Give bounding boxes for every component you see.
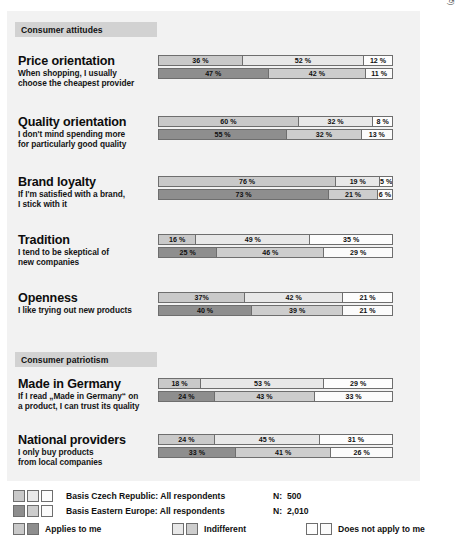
question-subtitle: If I read „Made in Germany“ ona product,… <box>18 392 158 411</box>
bar-segment-indifferent: 19 % <box>336 177 380 186</box>
bar-segment-does-not-apply-to-me: 5 % <box>380 177 392 186</box>
bar-group-quality-orientation: 60 %32 %8 %55 %32 %13 % <box>158 116 393 142</box>
bar-segment-applies-to-me: 76 % <box>159 177 336 186</box>
n-value: 500 <box>287 491 301 501</box>
question-subtitle: I only buy productsfrom local companies <box>18 448 158 467</box>
question-label-openness: OpennessI like trying out new products <box>18 292 158 316</box>
question-subtitle-line: from local companies <box>18 458 158 468</box>
bar-segment-indifferent: 41 % <box>236 448 332 457</box>
bar-segment-applies-to-me: 40 % <box>159 306 252 315</box>
question-label-made-in-germany: Made in GermanyIf I read „Made in German… <box>18 378 158 411</box>
bar-national-providers-czech: 24 %45 %31 % <box>158 434 393 445</box>
question-subtitle: I tend to be skeptical ofnew companies <box>18 248 158 267</box>
question-subtitle: I don't mind spending morefor particular… <box>18 130 158 149</box>
bar-made-in-germany-eastern: 24 %43 %33 % <box>158 391 393 402</box>
bar-segment-does-not-apply-to-me: 13 % <box>362 130 392 139</box>
bar-segment-does-not-apply-to-me: 21 % <box>343 306 392 315</box>
question-subtitle-line: I like trying out new products <box>18 306 158 316</box>
question-subtitle-line: I stick with it <box>18 200 158 210</box>
question-title: National providers <box>18 434 158 447</box>
section-header-label: Consumer attitudes <box>21 25 103 35</box>
bar-segment-applies-to-me: 47 % <box>159 69 269 78</box>
legend-key-does-not-apply: Does not apply to me <box>306 523 425 535</box>
bar-segment-applies-to-me: 33 % <box>159 448 236 457</box>
swatch-does-not-apply-light <box>306 523 318 535</box>
question-subtitle-line: a product, I can trust its quality <box>18 402 158 412</box>
bar-segment-applies-to-me: 25 % <box>159 248 217 257</box>
bar-segment-does-not-apply-to-me: 33 % <box>315 392 392 401</box>
legend-key-label: Applies to me <box>45 524 101 534</box>
bar-segment-applies-to-me: 36 % <box>159 56 243 65</box>
bar-segment-indifferent: 42 % <box>245 293 343 302</box>
bar-segment-applies-to-me: 55 % <box>159 130 287 139</box>
swatch-does-not-apply-czech <box>41 490 53 502</box>
bar-brand-loyalty-eastern: 73 %21 %6 % <box>158 189 393 200</box>
bar-group-brand-loyalty: 76 %19 %5 %73 %21 %6 % <box>158 176 393 202</box>
question-label-quality-orientation: Quality orientationI don't mind spending… <box>18 116 158 149</box>
bar-group-price-orientation: 36 %52 %12 %47 %42 %11 % <box>158 55 393 81</box>
legend-key-label: Does not apply to me <box>338 524 425 534</box>
bar-segment-does-not-apply-to-me: 21 % <box>343 293 392 302</box>
swatch-applies-czech <box>13 490 25 502</box>
bar-segment-does-not-apply-to-me: 12 % <box>364 56 392 65</box>
bar-segment-indifferent: 45 % <box>215 435 320 444</box>
bar-openness-eastern: 40 %39 %21 % <box>158 305 393 316</box>
section-header-label: Consumer patriotism <box>21 355 108 365</box>
swatch-applies-light <box>13 523 25 535</box>
bar-segment-does-not-apply-to-me: 31 % <box>320 435 392 444</box>
bar-segment-applies-to-me: 18 % <box>159 379 201 388</box>
bar-segment-does-not-apply-to-me: 8 % <box>373 117 392 126</box>
legend-n-eastern: N:2,010 <box>273 506 309 516</box>
bar-segment-indifferent: 42 % <box>269 69 367 78</box>
bar-segment-indifferent: 32 % <box>287 130 362 139</box>
bar-group-made-in-germany: 18 %53 %29 %24 %43 %33 % <box>158 378 393 404</box>
bar-segment-indifferent: 49 % <box>196 235 310 244</box>
legend-key-label: Indifferent <box>204 524 246 534</box>
bar-segment-does-not-apply-to-me: 29 % <box>324 379 392 388</box>
question-label-brand-loyalty: Brand loyaltyIf I'm satisfied with a bra… <box>18 176 158 209</box>
bar-price-orientation-eastern: 47 %42 %11 % <box>158 68 393 79</box>
swatch-indifferent-dark <box>186 523 198 535</box>
legend-n-czech: N:500 <box>273 491 301 501</box>
bar-tradition-eastern: 25 %46 %29 % <box>158 247 393 258</box>
swatch-indifferent-light <box>172 523 184 535</box>
bar-segment-does-not-apply-to-me: 29 % <box>324 248 392 257</box>
question-subtitle-line: new companies <box>18 258 158 268</box>
bar-segment-indifferent: 46 % <box>217 248 324 257</box>
bar-segment-indifferent: 21 % <box>329 190 378 199</box>
bar-segment-indifferent: 32 % <box>299 117 374 126</box>
legend-key-indifferent: Indifferent <box>172 523 246 535</box>
bar-segment-applies-to-me: 73 % <box>159 190 329 199</box>
bar-national-providers-eastern: 33 %41 %26 % <box>158 447 393 458</box>
source-note: (Source: TNS Infratest/MRSC, 2005) <box>448 0 455 14</box>
legend-key-applies: Applies to me <box>13 523 101 535</box>
legend-basis-row-eastern: Basis Eastern Europe: All respondents <box>13 505 225 517</box>
bar-segment-applies-to-me: 60 % <box>159 117 299 126</box>
question-title: Made in Germany <box>18 378 158 391</box>
legend-basis-label: Basis Czech Republic: All respondents <box>66 491 225 501</box>
question-title: Brand loyalty <box>18 176 158 189</box>
bar-segment-indifferent: 43 % <box>215 392 315 401</box>
question-label-national-providers: National providersI only buy productsfro… <box>18 434 158 467</box>
n-value: 2,010 <box>287 506 309 516</box>
bar-group-national-providers: 24 %45 %31 %33 %41 %26 % <box>158 434 393 460</box>
bar-made-in-germany-czech: 18 %53 %29 % <box>158 378 393 389</box>
section-header-consumer-attitudes: Consumer attitudes <box>15 22 157 37</box>
bar-segment-does-not-apply-to-me: 35 % <box>310 235 392 244</box>
bar-segment-indifferent: 53 % <box>201 379 324 388</box>
section-header-consumer-patriotism: Consumer patriotism <box>15 352 157 367</box>
swatch-applies-dark <box>27 523 39 535</box>
question-label-price-orientation: Price orientationWhen shopping, I usuall… <box>18 55 158 88</box>
bar-quality-orientation-eastern: 55 %32 %13 % <box>158 129 393 140</box>
bar-segment-does-not-apply-to-me: 11 % <box>366 69 392 78</box>
swatch-does-not-apply-eastern <box>41 505 53 517</box>
bar-segment-applies-to-me: 24 % <box>159 392 215 401</box>
legend-basis-label: Basis Eastern Europe: All respondents <box>66 506 225 516</box>
bar-segment-indifferent: 39 % <box>252 306 343 315</box>
question-title: Quality orientation <box>18 116 158 129</box>
bar-segment-applies-to-me: 37% <box>159 293 245 302</box>
question-subtitle: If I'm satisfied with a brand,I stick wi… <box>18 190 158 209</box>
bar-segment-applies-to-me: 24 % <box>159 435 215 444</box>
question-subtitle: I like trying out new products <box>18 306 158 316</box>
question-title: Price orientation <box>18 55 158 68</box>
